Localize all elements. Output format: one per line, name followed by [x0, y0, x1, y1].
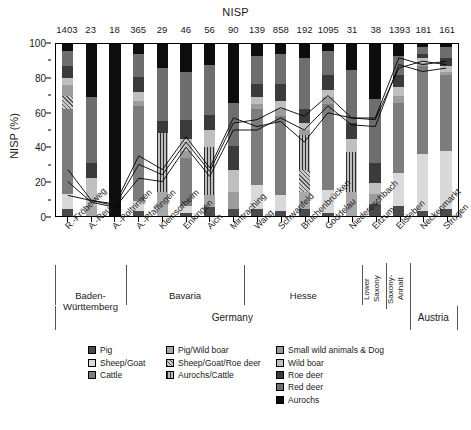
legend-item[interactable]: Aurochs/Cattle — [166, 369, 276, 381]
bar-segment — [299, 109, 310, 123]
legend-item[interactable]: Pig/Wild boar — [166, 344, 276, 356]
bar-segment — [204, 44, 215, 65]
legend-swatch-icon — [276, 346, 284, 354]
bar-segment — [440, 58, 451, 67]
bar-segment — [204, 130, 215, 147]
stacked-bar[interactable] — [204, 44, 215, 216]
nisp-total-value: 38 — [364, 23, 388, 37]
bar-segment — [157, 68, 168, 121]
y-axis: NISP (%) 020406080100 — [10, 36, 51, 224]
legend-item[interactable]: Sheep/Goat — [88, 356, 166, 368]
legend-label: Aurochs/Cattle — [178, 369, 234, 381]
bar-segment — [62, 44, 73, 51]
y-axis-minor-tick — [48, 130, 51, 131]
y-axis-tick — [46, 182, 51, 183]
y-axis-tick-label: 60 — [12, 107, 46, 118]
region-label: Baden-Württemberg — [55, 290, 126, 312]
legend-label: Sheep/Goat — [100, 357, 145, 369]
bar-segment — [369, 44, 380, 99]
legend-item[interactable]: Wild boar — [276, 356, 398, 368]
bar-segment — [228, 44, 239, 102]
bar-segment — [346, 123, 357, 138]
bar-segment — [322, 104, 333, 190]
legend-label: Sheep/Goat/Roe deer — [178, 357, 261, 369]
bar-segment — [440, 75, 451, 151]
bar-segment — [251, 109, 262, 185]
stacked-bar[interactable] — [109, 44, 120, 216]
plot-area — [55, 43, 459, 217]
bar-segment — [62, 109, 73, 193]
bar-segment — [228, 103, 239, 146]
bar-segment — [299, 135, 310, 169]
bar-segment — [251, 56, 262, 84]
bar-segment — [133, 77, 144, 92]
y-axis-tick-label: 40 — [12, 142, 46, 153]
stacked-bar[interactable] — [228, 44, 239, 216]
bar-segment — [133, 54, 144, 76]
y-axis-minor-tick — [48, 199, 51, 200]
nisp-total-value: 31 — [340, 23, 364, 37]
y-axis-minor-tick — [48, 95, 51, 96]
bar-segment — [322, 90, 333, 97]
legend-item[interactable]: Cattle — [88, 369, 166, 381]
legend-item[interactable]: Pig — [88, 344, 166, 356]
bar-segment — [62, 96, 73, 110]
stacked-bar[interactable] — [417, 44, 428, 216]
bar-segment — [275, 101, 286, 110]
bar-segment — [180, 151, 191, 158]
legend-label: Roe deer — [288, 369, 323, 381]
legend-label: Small wild animals & Dog — [288, 344, 384, 356]
bar-segment — [417, 66, 428, 154]
legend-swatch-icon — [166, 346, 174, 354]
region-label: Lower Saxony — [362, 267, 386, 311]
legend-item[interactable]: Small wild animals & Dog — [276, 344, 398, 356]
nisp-total-value: 1095 — [316, 23, 340, 37]
bar-segment — [228, 146, 239, 170]
legend-label: Wild boar — [288, 357, 324, 369]
y-axis-tick — [46, 217, 51, 218]
chart-title: NISP — [0, 6, 471, 18]
country-separator — [55, 306, 56, 330]
bar-slot — [56, 44, 80, 216]
nisp-total-value: 23 — [79, 23, 103, 37]
legend-item[interactable]: Red deer — [276, 381, 398, 393]
nisp-total-value: 46 — [174, 23, 198, 37]
bar-segment — [440, 47, 451, 57]
legend-item[interactable]: Aurochs — [276, 394, 398, 406]
region-label: Saxony-Anhalt — [386, 267, 410, 311]
legend-swatch-icon — [276, 396, 284, 404]
stacked-bar[interactable] — [62, 44, 73, 216]
y-axis-tick — [46, 147, 51, 148]
bar-segment — [133, 106, 144, 201]
stacked-bar[interactable] — [275, 44, 286, 216]
bar-slot — [221, 44, 245, 216]
bar-segment — [299, 58, 310, 110]
bar-segment — [322, 75, 333, 90]
bar-segment — [275, 116, 286, 195]
legend-swatch-icon — [276, 371, 284, 379]
y-axis-tick — [46, 43, 51, 44]
bar-segment — [180, 139, 191, 151]
nisp-total-value: 858 — [269, 23, 293, 37]
nisp-total-values: 1403231836529465690139858192109531381393… — [55, 23, 459, 37]
bar-segment — [157, 44, 168, 68]
bar-segment — [393, 56, 404, 75]
stacked-bar[interactable] — [346, 44, 357, 216]
region-label: Hesse — [244, 290, 362, 301]
legend-swatch-icon — [166, 359, 174, 367]
country-label: Austria — [410, 312, 457, 323]
bar-slot — [411, 44, 435, 216]
nisp-total-value: 1403 — [55, 23, 79, 37]
bar-segment — [275, 84, 286, 101]
bar-segment — [393, 103, 404, 174]
nisp-total-value: 161 — [435, 23, 459, 37]
bar-segment — [133, 44, 144, 54]
bar-segment — [180, 120, 191, 139]
legend-item[interactable]: Sheep/Goat/Roe deer — [166, 356, 276, 368]
legend-item[interactable]: Roe deer — [276, 369, 398, 381]
nisp-total-value: 365 — [126, 23, 150, 37]
bar-segment — [180, 44, 191, 72]
legend-label: Pig — [100, 344, 112, 356]
country-separator — [457, 306, 458, 330]
bar-segment — [346, 139, 357, 153]
